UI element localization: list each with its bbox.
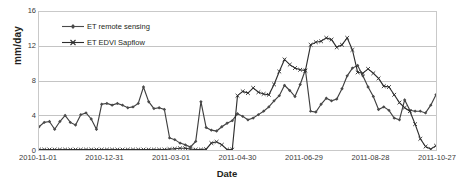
legend-diamond-marker-icon bbox=[62, 22, 84, 31]
data-point-marker bbox=[251, 86, 255, 90]
y-tick-label: 8 bbox=[4, 77, 36, 85]
data-point-marker bbox=[116, 102, 119, 105]
x-tick-label: 2011-04-30 bbox=[219, 153, 257, 162]
legend-item-et-remote-sensing[interactable]: ET remote sensing bbox=[62, 22, 150, 31]
x-tick-label: 2011-08-28 bbox=[352, 153, 390, 162]
data-point-marker bbox=[371, 71, 375, 75]
x-tick-label: 2010-12-31 bbox=[85, 153, 123, 162]
x-tick-label: 2011-06-29 bbox=[285, 153, 323, 162]
data-point-marker bbox=[105, 102, 108, 105]
legend: ET remote sensingET EDVI Sapflow bbox=[62, 22, 150, 47]
series-line bbox=[39, 38, 436, 150]
data-point-marker bbox=[184, 143, 187, 146]
x-tick-label: 2011-10-27 bbox=[418, 153, 456, 162]
data-point-marker bbox=[419, 110, 422, 113]
x-tick-label: 2010-11-01 bbox=[19, 153, 57, 162]
data-point-marker bbox=[403, 106, 407, 110]
data-point-marker bbox=[142, 85, 145, 88]
data-point-marker bbox=[366, 67, 370, 71]
legend-item-label: ET EDVI Sapflow bbox=[87, 38, 145, 47]
data-point-marker bbox=[392, 93, 396, 97]
x-axis-tick-labels: 2010-11-012010-12-312011-03-012011-04-30… bbox=[0, 153, 454, 167]
data-point-marker bbox=[110, 103, 113, 106]
data-point-marker bbox=[220, 143, 224, 147]
data-point-marker bbox=[424, 145, 428, 149]
series-et-edvi-sapflow bbox=[39, 36, 436, 150]
data-point-marker bbox=[199, 100, 202, 103]
legend-item-et-edvi-sapflow[interactable]: ET EDVI Sapflow bbox=[62, 38, 150, 47]
x-axis-title: Date bbox=[0, 168, 454, 179]
y-tick-label: 12 bbox=[4, 42, 36, 50]
y-tick-label: 16 bbox=[4, 7, 36, 15]
data-point-marker bbox=[398, 101, 402, 105]
legend-x-marker-icon bbox=[62, 38, 84, 47]
data-point-marker bbox=[168, 136, 171, 139]
legend-item-label: ET remote sensing bbox=[87, 22, 150, 31]
x-tick-label: 2011-03-01 bbox=[152, 153, 190, 162]
data-point-marker bbox=[398, 118, 401, 121]
data-point-marker bbox=[100, 103, 103, 106]
data-point-marker bbox=[413, 110, 416, 113]
data-point-marker bbox=[163, 108, 166, 111]
data-point-marker bbox=[288, 63, 292, 67]
data-point-marker bbox=[157, 106, 160, 109]
data-point-marker bbox=[309, 110, 312, 113]
data-point-marker bbox=[377, 77, 381, 81]
data-point-marker bbox=[298, 83, 301, 86]
series-line bbox=[39, 65, 436, 147]
y-tick-label: 4 bbox=[4, 112, 36, 120]
